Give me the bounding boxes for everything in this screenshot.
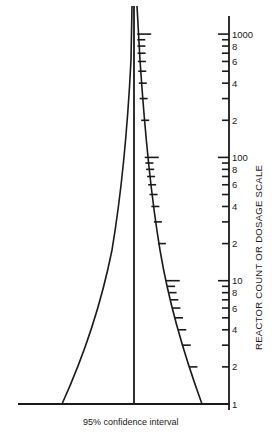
axis-label: 6 xyxy=(232,303,237,314)
axis-label: 8 xyxy=(232,164,237,175)
caption: 95% confidence interval xyxy=(83,417,179,427)
axis-label: 4 xyxy=(232,324,237,335)
axis-label: 8 xyxy=(232,41,237,52)
axis-label: 100 xyxy=(232,152,248,163)
axis-title: REACTOR COUNT OR DOSAGE SCALE xyxy=(253,165,264,350)
axis-label: 2 xyxy=(232,115,237,126)
axis-label: 6 xyxy=(232,56,237,67)
axis-label: 8 xyxy=(232,287,237,298)
axis-label: 2 xyxy=(232,361,237,372)
left-confidence-curve xyxy=(62,6,132,404)
axis-label: 10 xyxy=(232,275,243,286)
axis-label: 1000 xyxy=(232,29,253,40)
scale-axis-ticks xyxy=(218,34,229,404)
axis-label: 6 xyxy=(232,179,237,190)
axis-label: 2 xyxy=(232,238,237,249)
axis-label: 4 xyxy=(232,78,237,89)
scale-axis-labels: 1246810246810024681000 xyxy=(232,29,253,410)
funnel-curves xyxy=(18,6,230,410)
confidence-interval-diagram: 1246810246810024681000 REACTOR COUNT OR … xyxy=(0,0,280,441)
axis-label: 1 xyxy=(232,399,237,410)
curve-ticks xyxy=(137,34,197,367)
right-confidence-curve xyxy=(137,6,202,404)
axis-label: 4 xyxy=(232,201,237,212)
